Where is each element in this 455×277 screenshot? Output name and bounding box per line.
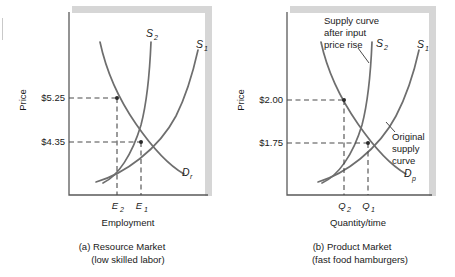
- panel-a-shadow-top: [72, 6, 212, 13]
- panel-a-label-s2: S: [146, 27, 153, 39]
- panel-b-y-axis-label: Price: [235, 89, 246, 111]
- panel-b-label-s1: S: [417, 38, 424, 50]
- panel-b-x-label-1-sub: 1: [371, 206, 375, 213]
- panel-b-equilibrium-dot-1: [366, 141, 370, 145]
- panel-b-price-label-1: $2.00: [259, 94, 283, 105]
- panel-b-caption-line2: (fast food hamburgers): [312, 254, 408, 265]
- panel-a-curve-dr: [100, 42, 184, 174]
- panel-b-equilibrium-dot-2: [342, 98, 346, 102]
- panel-a-caption-line1: (a) Resource Market: [79, 241, 166, 252]
- panel-a-label-s2-sub: 2: [153, 34, 158, 41]
- panel-a-equilibrium-dot-1: [139, 140, 143, 144]
- panel-a-y-axis-label: Price: [17, 89, 28, 111]
- panel-a-x-label-2-sub: 2: [119, 206, 124, 213]
- panel-b-x-axis-label: Quantity/time: [330, 217, 386, 228]
- panel-a-curve-s1: [96, 50, 198, 182]
- panel-b-shadow-top: [290, 6, 436, 13]
- panel-b-label-dp-sub: p: [411, 175, 416, 183]
- panel-b-label-dp: D: [404, 167, 412, 179]
- panel-a-shadow-right: [205, 10, 212, 196]
- panel-a-price-label-2: $4.35: [41, 136, 65, 147]
- panel-b-annotation-shifted-line3: price rise: [324, 39, 363, 50]
- economics-figure: Price $5.25 $4.35 S 2 S 1 D r E 2 E 1 Em…: [0, 0, 455, 277]
- panel-b-annotation-original-line2: supply: [392, 143, 420, 154]
- panel-b-label-s2-sub: 2: [383, 44, 388, 51]
- panel-a-x-label-2: E: [112, 200, 119, 211]
- panel-a-equilibrium-dot-2: [115, 96, 119, 100]
- panel-b: Price $2.00 $1.75 Supply curve after inp…: [235, 6, 436, 265]
- panel-b-annotation-original-line1: Original: [392, 131, 425, 142]
- panel-a-x-label-1-sub: 1: [144, 206, 148, 213]
- panel-b-annotation-shifted-line1: Supply curve: [324, 15, 379, 26]
- panel-b-leader-shifted: [358, 48, 369, 63]
- panel-b-shadow-right: [429, 10, 436, 196]
- panel-a-price-label-1: $5.25: [41, 92, 65, 103]
- panel-a-x-axis-label: Employment: [102, 217, 155, 228]
- panel-a-x-label-1: E: [136, 200, 143, 211]
- panel-a-caption-line2: (low skilled labor): [91, 254, 164, 265]
- panel-b-x-label-1: Q: [362, 200, 370, 211]
- panel-b-annotation-shifted-line2: after input: [324, 27, 367, 38]
- panel-b-caption-line1: (b) Product Market: [313, 241, 392, 252]
- panel-a-label-dr-sub: r: [190, 173, 193, 180]
- panel-b-x-label-2-sub: 2: [346, 206, 351, 213]
- panel-b-annotation-original-line3: curve: [392, 155, 415, 166]
- panel-a-label-s1-sub: 1: [204, 45, 208, 52]
- panel-b-label-s2: S: [376, 37, 383, 49]
- panel-b-price-label-2: $1.75: [259, 137, 283, 148]
- panel-b-curve-s2: [322, 42, 372, 183]
- panel-b-x-label-2: Q: [338, 200, 346, 211]
- panel-a-curve-s2: [103, 42, 151, 183]
- panel-b-label-s1-sub: 1: [425, 45, 429, 52]
- panel-a-label-s1: S: [196, 38, 203, 50]
- panel-a-label-dr: D: [182, 166, 190, 178]
- panel-a: Price $5.25 $4.35 S 2 S 1 D r E 2 E 1 Em…: [17, 6, 212, 265]
